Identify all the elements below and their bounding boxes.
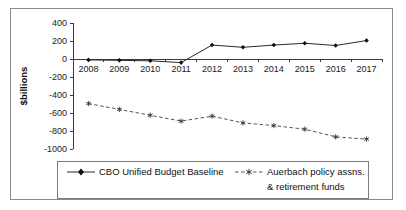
svg-text:2016: 2016 <box>326 64 346 74</box>
svg-text:0: 0 <box>62 54 67 64</box>
svg-text:2011: 2011 <box>171 64 190 74</box>
svg-text:2009: 2009 <box>109 64 129 74</box>
svg-text:-600: -600 <box>49 108 67 118</box>
x-axis-tick-labels: 2008200920102011201220132014201520162017 <box>78 64 376 74</box>
svg-text:-1000: -1000 <box>44 144 67 154</box>
svg-text:200: 200 <box>52 36 67 46</box>
legend-entry-cbo: CBO Unified Budget Baseline <box>66 166 224 177</box>
svg-text:2015: 2015 <box>295 64 315 74</box>
y-axis-tick-labels: 4002000-200-400-600-800-1000 <box>44 18 67 154</box>
legend-entry-auerbach-line2: & retirement funds <box>267 181 345 192</box>
legend-label-auerbach-line1: Auerbach policy assns. <box>267 166 365 177</box>
svg-text:2010: 2010 <box>140 64 160 74</box>
y-axis-title: $billions <box>18 67 29 106</box>
svg-text:400: 400 <box>52 18 67 28</box>
svg-text:-400: -400 <box>49 90 67 100</box>
svg-text:2017: 2017 <box>357 64 377 74</box>
svg-text:-800: -800 <box>49 126 67 136</box>
svg-text:-200: -200 <box>49 72 67 82</box>
chart-legend: CBO Unified Budget Baseline Auerbach pol… <box>57 161 369 199</box>
svg-text:2014: 2014 <box>264 64 284 74</box>
legend-marker-dashed-star-icon <box>234 167 264 177</box>
svg-text:2008: 2008 <box>78 64 98 74</box>
legend-entry-auerbach: Auerbach policy assns. <box>234 166 365 177</box>
chart-screenshot: 2008200920102011201220132014201520162017… <box>0 0 406 210</box>
svg-text:2013: 2013 <box>233 64 253 74</box>
svg-text:2012: 2012 <box>202 64 222 74</box>
data-series-layer <box>86 38 369 141</box>
legend-marker-solid-diamond-icon <box>66 167 96 177</box>
legend-label-auerbach-line2: & retirement funds <box>267 181 345 192</box>
chart-outer-frame: 2008200920102011201220132014201520162017… <box>10 8 393 200</box>
legend-label-cbo: CBO Unified Budget Baseline <box>99 166 224 177</box>
